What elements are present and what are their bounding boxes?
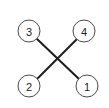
crossing-diagram: 3 4 2 1 [0, 0, 109, 108]
node-2-label: 2 [26, 81, 32, 93]
node-3-label: 3 [26, 26, 32, 38]
node-1: 1 [76, 75, 98, 97]
node-3: 3 [18, 20, 40, 42]
node-4-label: 4 [81, 26, 87, 38]
node-2: 2 [18, 75, 40, 97]
node-4: 4 [73, 20, 95, 42]
node-1-label: 1 [84, 81, 90, 93]
